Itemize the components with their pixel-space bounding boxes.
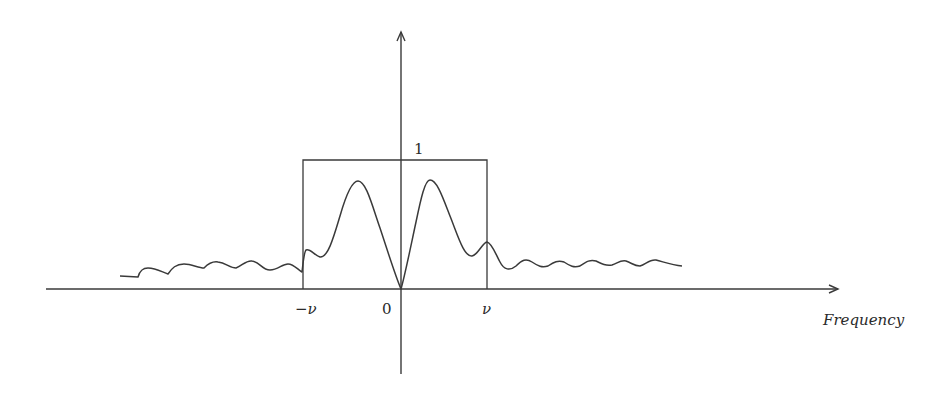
frequency-diagram: 1 −ν 0 ν Frequency xyxy=(0,0,928,404)
y-tick-one-label: 1 xyxy=(414,140,424,158)
pos-nu-label: ν xyxy=(482,300,491,318)
x-axis-label-frequency: Frequency xyxy=(822,311,905,329)
zero-label: 0 xyxy=(382,300,392,318)
neg-nu-label: −ν xyxy=(295,300,317,318)
ideal-bandpass-rectangle xyxy=(303,160,487,289)
